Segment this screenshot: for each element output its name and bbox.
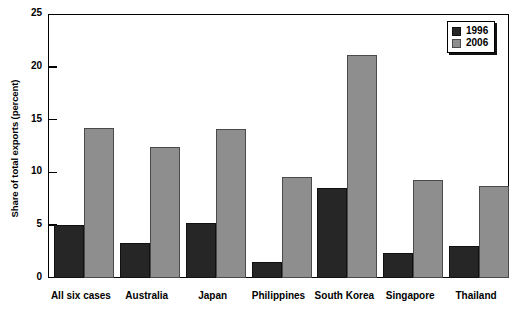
bar-group [114,14,180,278]
x-axis-label-south-korea: South Korea [311,290,377,301]
x-axis-label-japan: Japan [180,290,246,301]
legend-label-2006: 2006 [466,37,488,49]
bar-chart: Share of total exports (percent) 0510152… [0,0,524,319]
bar-2006-japan [216,129,246,278]
y-tick-label: 5 [0,218,42,229]
bar-2006-south-korea [347,55,377,278]
bar-2006-singapore [413,180,443,278]
bar-group [246,14,312,278]
bars-layer [48,14,509,278]
y-tick-label: 15 [0,113,42,124]
bar-1996-south-korea [317,188,347,278]
bar-group [443,14,509,278]
legend-swatch-icon-1996 [452,27,461,36]
x-axis-label-australia: Australia [114,290,180,301]
legend: 1996 2006 [447,21,495,53]
bar-1996-australia [120,243,150,278]
legend-item-1996: 1996 [452,25,488,37]
legend-label-1996: 1996 [466,25,488,37]
bar-1996-thailand [449,246,479,278]
bar-2006-australia [150,147,180,278]
bar-1996-singapore [383,253,413,278]
bar-group [377,14,443,278]
x-axis-label-philippines: Philippines [246,290,312,301]
bar-group [180,14,246,278]
bar-group [311,14,377,278]
y-tick-label: 20 [0,60,42,71]
x-axis-label-all-six-cases: All six cases [48,290,114,301]
legend-swatch-icon-2006 [452,39,461,48]
y-tick-label: 0 [0,271,42,282]
bar-2006-all-six-cases [84,128,114,278]
x-axis-label-singapore: Singapore [377,290,443,301]
bar-2006-thailand [479,186,509,278]
x-axis-label-thailand: Thailand [443,290,509,301]
legend-item-2006: 2006 [452,37,488,49]
bar-1996-all-six-cases [54,225,84,278]
bar-group [48,14,114,278]
bar-1996-philippines [252,262,282,278]
y-tick-label: 10 [0,165,42,176]
bar-2006-philippines [282,177,312,278]
bar-1996-japan [186,223,216,278]
y-tick-label: 25 [0,7,42,18]
